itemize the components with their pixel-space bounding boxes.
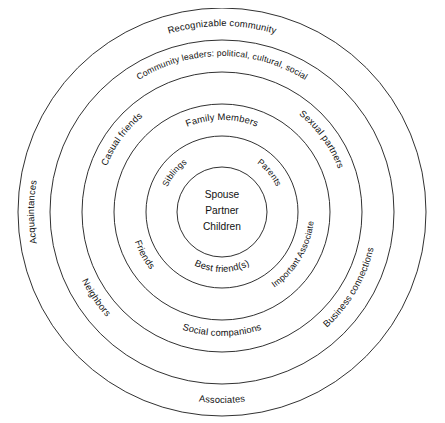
label-sexual-partners: Sexual partners: [298, 108, 347, 170]
label-business-connections: Business connections: [321, 246, 376, 329]
label-social-companions: Social companions: [181, 321, 262, 338]
page-root: Recognizable community Community leaders…: [0, 0, 445, 423]
label-siblings: Siblings: [160, 156, 189, 188]
label-parents: Parents: [256, 157, 284, 188]
label-friends: Friends: [133, 238, 158, 271]
circles-diagram: Recognizable community Community leaders…: [0, 8, 445, 423]
label-neighbors: Neighbors: [80, 276, 113, 318]
label-associates: Associates: [198, 393, 245, 405]
label-casual-friends: Casual friends: [98, 110, 144, 167]
label-acquaintances: Acquaintances: [25, 179, 39, 245]
core-line-spouse: Spouse: [205, 189, 240, 200]
label-best-friends: Best friend(s): [193, 257, 250, 274]
core-line-children: Children: [203, 221, 241, 232]
label-recognizable-community: Recognizable community: [166, 17, 278, 36]
concentric-circles-svg: Recognizable community Community leaders…: [0, 8, 445, 423]
core-line-partner: Partner: [205, 205, 239, 216]
label-family-members: Family Members: [184, 111, 260, 129]
label-community-leaders: Community leaders: political, cultural, …: [135, 48, 310, 82]
label-important-associate: Important Associate: [270, 220, 316, 289]
